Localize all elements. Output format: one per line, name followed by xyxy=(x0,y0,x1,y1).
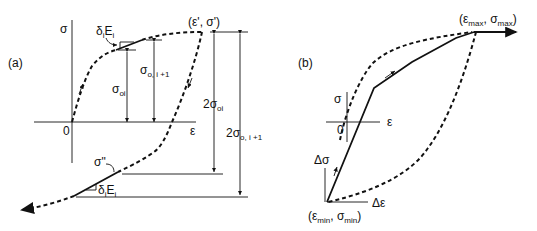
two-sigma-oi-label: 2σoi xyxy=(203,97,224,113)
loading-curve-top xyxy=(142,32,202,40)
slope-label-top: δiEi xyxy=(96,24,114,40)
stress-strain-path xyxy=(327,32,474,202)
path-arrow-lower xyxy=(334,167,337,176)
sigma-oi-label: σoi xyxy=(112,82,126,98)
epsilon-axis-label: ε xyxy=(190,124,196,138)
panel-a-label: (a) xyxy=(8,56,23,70)
max-point-label: (εmax, σmax) xyxy=(459,12,517,28)
loading-curve xyxy=(72,50,116,122)
lower-envelope xyxy=(328,32,476,202)
origin-label: 0 xyxy=(63,124,70,138)
delta-eps-label: Δε xyxy=(372,196,386,210)
peak-point-label: (ε', σ') xyxy=(188,15,220,29)
sigma-o-i1-label: σo, i +1 xyxy=(140,63,170,79)
sigma-axis-label-b: σ xyxy=(334,92,342,106)
panel-a: (a) σ ε 0 δiEi δiEi σ" (ε', σ') xyxy=(8,15,263,210)
panel-b: (b) σ ε 0 Δσ Δε (εmax, σmax) (εmin, σmin… xyxy=(298,12,517,225)
unloading-curve-tail xyxy=(22,196,74,210)
two-sigma-o-i1-label: 2σo, i +1 xyxy=(226,126,263,142)
panel-b-label: (b) xyxy=(298,56,313,70)
sigma-axis-label: σ xyxy=(60,22,68,36)
delta-sigma-label: Δσ xyxy=(314,153,330,167)
min-point-label: (εmin, σmin) xyxy=(308,209,361,225)
diagram-canvas: (a) σ ε 0 δiEi δiEi σ" (ε', σ') xyxy=(0,0,537,231)
reversal-pointer xyxy=(106,164,114,172)
unloading-curve xyxy=(118,32,202,172)
reversal-label: σ" xyxy=(94,155,106,169)
epsilon-axis-label-b: ε xyxy=(387,115,393,129)
